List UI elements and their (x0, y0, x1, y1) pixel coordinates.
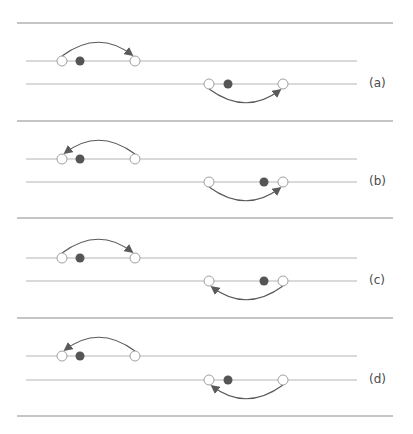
particle-dot (260, 178, 269, 187)
empty-site-circle (57, 253, 67, 263)
panel-label-d: (d) (369, 373, 386, 385)
empty-site-circle (130, 56, 140, 66)
particle-dot (260, 277, 269, 286)
hop-arrow-icon (62, 239, 132, 253)
empty-site-circle (130, 154, 140, 164)
empty-site-circle (278, 79, 288, 89)
hop-arrow-icon (212, 385, 283, 399)
empty-site-circle (57, 154, 67, 164)
particle-dot (76, 57, 85, 66)
particle-dot (76, 155, 85, 164)
hop-arrow-icon (209, 89, 280, 103)
empty-site-circle (130, 351, 140, 361)
hop-diagram (0, 0, 413, 434)
panel-label-c: (c) (369, 274, 385, 286)
panels (26, 42, 357, 399)
hop-arrow-icon (209, 187, 280, 201)
hop-arrow-icon (65, 140, 135, 154)
empty-site-circle (278, 177, 288, 187)
panel-a (26, 42, 357, 103)
panel-d (26, 337, 357, 399)
hop-arrow-icon (212, 286, 283, 300)
hop-arrow-icon (65, 337, 135, 351)
panel-label-a: (a) (369, 77, 386, 89)
empty-site-circle (204, 177, 214, 187)
empty-site-circle (278, 276, 288, 286)
particle-dot (76, 352, 85, 361)
particle-dot (76, 254, 85, 263)
empty-site-circle (204, 375, 214, 385)
panel-c (26, 239, 357, 300)
panel-b (26, 140, 357, 201)
empty-site-circle (57, 56, 67, 66)
empty-site-circle (204, 79, 214, 89)
empty-site-circle (57, 351, 67, 361)
panel-label-b: (b) (369, 175, 386, 187)
particle-dot (224, 376, 233, 385)
empty-site-circle (204, 276, 214, 286)
empty-site-circle (278, 375, 288, 385)
hop-arrow-icon (62, 42, 132, 56)
empty-site-circle (130, 253, 140, 263)
particle-dot (224, 80, 233, 89)
